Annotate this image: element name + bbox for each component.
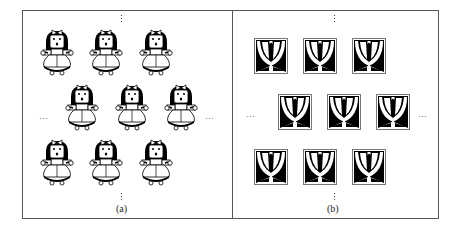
panel-caption-a: (a) <box>116 203 127 214</box>
vertical-ellipsis-bottom <box>121 193 123 202</box>
tulip-tile <box>376 94 410 130</box>
horizontal-ellipsis-right: … <box>418 110 427 119</box>
doll-figure <box>89 28 123 76</box>
tulip-tile <box>352 38 386 74</box>
vertical-ellipsis-top <box>121 15 123 24</box>
panel-b: … … (b) <box>233 10 439 219</box>
vertical-ellipsis-bottom <box>334 193 336 202</box>
doll-figure <box>139 28 173 76</box>
tulip-tile <box>303 149 337 185</box>
tulip-tile <box>254 38 288 74</box>
doll-figure <box>164 83 198 131</box>
doll-figure <box>40 138 74 186</box>
tulip-tile <box>352 149 386 185</box>
horizontal-ellipsis-left: … <box>246 110 255 119</box>
tulip-tile <box>254 149 288 185</box>
horizontal-ellipsis-left: … <box>39 112 48 121</box>
tulip-tile <box>327 94 361 130</box>
horizontal-ellipsis-right: … <box>205 112 214 121</box>
doll-figure <box>139 138 173 186</box>
doll-figure <box>40 28 74 76</box>
panel-caption-b: (b) <box>327 203 339 214</box>
tulip-tile <box>278 94 312 130</box>
vertical-ellipsis-top <box>334 15 336 24</box>
doll-figure <box>115 83 149 131</box>
doll-figure <box>89 138 123 186</box>
tulip-tile <box>303 38 337 74</box>
doll-figure <box>65 83 99 131</box>
panel-a: … … (a) <box>22 10 232 219</box>
